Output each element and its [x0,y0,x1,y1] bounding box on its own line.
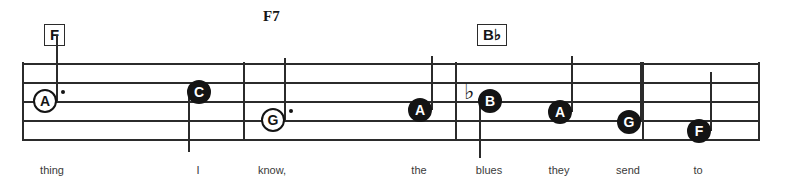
lyric-syllable-2: I [196,164,199,177]
note-g-7[interactable]: G [617,110,641,134]
note-stem-2 [188,92,190,152]
note-a-4[interactable]: A [408,98,432,122]
chord-symbol-F7: F7 [263,8,280,24]
note-stem-6 [571,56,573,112]
lyric-syllable-7: send [616,164,640,177]
note-stem-8 [710,72,712,131]
staff-start [22,62,24,141]
note-c-2[interactable]: C [187,80,211,104]
chord-symbol-label: B♭ [483,26,501,43]
note-letter: A [415,102,425,118]
note-letter: F [695,123,704,139]
lyric-syllable-8: to [693,164,702,177]
note-letter: C [194,84,204,100]
note-stem-7 [640,62,642,122]
note-letter: A [555,104,565,120]
music-staff-sheet: FF7B♭ACGA♭BAGFthingIknow,thebluestheysen… [0,0,786,191]
lyric-syllable-5: blues [476,164,502,177]
note-f-8[interactable]: F [687,119,711,143]
augmentation-dot-3 [289,109,293,113]
note-stem-4 [431,56,433,110]
chord-symbol-Bb: B♭ [477,24,507,46]
note-stem-3 [284,58,286,120]
staff-line-2 [22,82,760,84]
note-a-6[interactable]: A [548,100,572,124]
staff-line-1 [22,63,760,65]
note-letter: G [268,112,279,128]
note-b-5[interactable]: B [478,89,502,113]
barline-2 [455,62,457,141]
note-letter: B [485,93,495,109]
note-stem-1 [56,35,58,101]
barline-3 [642,62,644,141]
note-letter: G [624,114,635,130]
note-letter: A [40,93,50,109]
lyric-syllable-3: know, [258,164,286,177]
accidental-flat-5: ♭ [464,81,474,103]
lyric-syllable-1: thing [40,164,64,177]
staff-line-5 [22,139,760,141]
chord-symbol-label: F7 [263,8,280,24]
staff-line-4 [22,120,760,122]
lyric-syllable-6: they [549,164,570,177]
note-g-3[interactable]: G [261,108,285,132]
augmentation-dot-1 [61,90,65,94]
lyric-syllable-4: the [411,164,426,177]
barline-1 [243,62,245,141]
chord-symbol-F: F [44,24,65,46]
note-a-1[interactable]: A [33,89,57,113]
staff-end [758,62,760,141]
staff-line-3 [22,101,760,103]
